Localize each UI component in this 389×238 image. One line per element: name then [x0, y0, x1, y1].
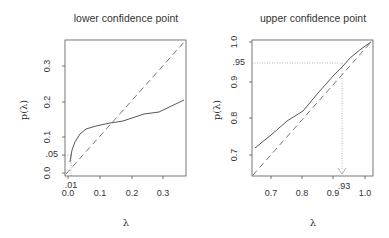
svg-text:0.9: 0.9 [229, 76, 239, 89]
svg-text:0.0: 0.0 [42, 167, 52, 180]
svg-text:0.8: 0.8 [229, 112, 239, 125]
x-axis-label: λ [310, 217, 317, 228]
svg-text:0.2: 0.2 [42, 96, 52, 109]
svg-text:0.7: 0.7 [229, 149, 239, 162]
plot-title: lower confidence point [74, 12, 179, 24]
charts-canvas: lower confidence point 0.0 .05 0.1 0.2 0… [0, 0, 389, 238]
lower-confidence-plot: lower confidence point 0.0 .05 0.1 0.2 0… [18, 12, 186, 228]
diagonal-line [253, 41, 372, 175]
x-axis-label: λ [123, 217, 130, 228]
y-axis-label: p(λ) [211, 100, 222, 121]
svg-text:0.3: 0.3 [157, 188, 170, 198]
svg-text:0.1: 0.1 [42, 131, 52, 144]
upper-confidence-plot: upper confidence point 0.7 0.8 0.9 .95 1… [211, 12, 373, 228]
x-tick-labels: 0.7 0.8 0.9 1.0 .93 [265, 181, 372, 198]
svg-text:0.7: 0.7 [265, 188, 278, 198]
y-axis-label: p(λ) [18, 100, 29, 121]
diagonal-line [66, 40, 186, 174]
svg-text:1.0: 1.0 [359, 188, 372, 198]
y-tick-labels: 0.0 .05 0.1 0.2 0.3 [42, 60, 58, 180]
svg-text:0.1: 0.1 [94, 188, 107, 198]
svg-text:0.3: 0.3 [42, 60, 52, 73]
svg-text:0.8: 0.8 [296, 188, 309, 198]
svg-text:.95: .95 [232, 57, 245, 67]
y-tick-labels: 0.7 0.8 0.9 .95 1.0 [229, 36, 245, 162]
p-lambda-curve [70, 100, 184, 162]
svg-text:0.2: 0.2 [126, 188, 139, 198]
plot-title: upper confidence point [260, 12, 366, 24]
x-tick-labels: 0.0 0.1 0.2 0.3 .01 [62, 180, 170, 198]
svg-text:.01: .01 [65, 180, 78, 190]
p-lambda-curve [255, 42, 371, 148]
svg-text:1.0: 1.0 [229, 36, 239, 49]
svg-text:.93: .93 [338, 181, 351, 191]
svg-text:.05: .05 [45, 149, 58, 159]
